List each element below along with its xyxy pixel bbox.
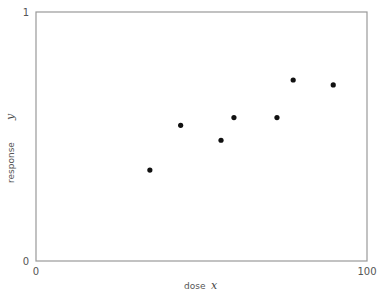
data-point — [147, 168, 152, 173]
x-axis-label: dose x — [184, 279, 218, 292]
x-axis-variable: x — [211, 279, 218, 292]
data-point — [231, 115, 236, 120]
data-point — [291, 77, 296, 82]
x-axis-label-text: dose — [184, 281, 206, 291]
y-axis-label-text: response — [6, 142, 16, 183]
data-point — [178, 123, 183, 128]
y-tick-min: 0 — [23, 256, 29, 267]
data-points — [147, 77, 336, 172]
data-point — [218, 138, 223, 143]
data-point — [274, 115, 279, 120]
x-tick-max: 100 — [357, 266, 376, 277]
y-tick-max: 1 — [23, 7, 29, 18]
plot-frame — [36, 12, 367, 261]
data-point — [331, 82, 336, 87]
x-tick-min: 0 — [33, 266, 39, 277]
y-axis-label: response y — [4, 113, 17, 183]
scatter-chart: 1 0 0 100 dose x response y — [0, 0, 383, 298]
y-axis-variable: y — [4, 113, 17, 121]
